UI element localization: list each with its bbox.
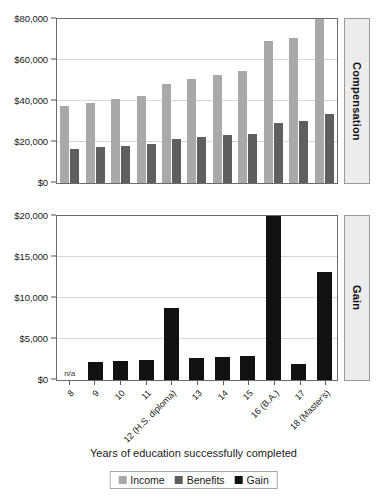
bar-income[interactable] <box>137 96 146 183</box>
bar-income[interactable] <box>162 84 171 183</box>
bar-income[interactable] <box>187 79 196 183</box>
legend-swatch-icon <box>175 476 183 484</box>
x-tick-slot: 8 <box>56 381 82 447</box>
x-tick-mark <box>94 381 95 385</box>
legend-item[interactable]: Benefits <box>175 474 225 486</box>
bar-group[interactable] <box>159 216 184 380</box>
bar-gain[interactable] <box>189 358 204 380</box>
bar-benefits[interactable] <box>248 134 257 183</box>
y-tick-label: $15,000 <box>14 252 48 261</box>
bar-income[interactable] <box>238 71 247 183</box>
legend-swatch-icon <box>118 476 126 484</box>
x-axis: 89101112 (H.S. diploma)13141516 (B.A.)17… <box>56 381 338 447</box>
x-tick-mark <box>223 381 224 385</box>
compensation-bars <box>57 19 337 183</box>
y-tick-label: $80,000 <box>14 14 48 23</box>
y-tick-label: $40,000 <box>14 96 48 105</box>
x-tick-label: 9 <box>91 388 102 399</box>
bar-group[interactable] <box>108 19 133 183</box>
bar-benefits[interactable] <box>96 147 105 183</box>
gain-y-axis: $0$5,000$10,000$15,000$20,000 <box>0 215 56 381</box>
bar-gain[interactable] <box>88 362 103 380</box>
bar-group[interactable] <box>57 19 82 183</box>
bar-group[interactable] <box>235 216 260 380</box>
x-tick-mark <box>325 381 326 385</box>
bar-group[interactable] <box>210 19 235 183</box>
y-tick-label: $20,000 <box>14 211 48 220</box>
bar-gain[interactable] <box>215 357 230 380</box>
bar-benefits[interactable] <box>325 114 334 183</box>
x-tick-mark <box>300 381 301 385</box>
x-tick-label: 10 <box>113 388 127 402</box>
bar-group[interactable] <box>286 19 311 183</box>
bar-group[interactable] <box>184 216 209 380</box>
legend-item[interactable]: Gain <box>235 474 269 486</box>
bar-benefits[interactable] <box>70 149 79 183</box>
compensation-side-label: Compensation <box>344 18 370 184</box>
bar-gain[interactable] <box>164 308 179 380</box>
x-tick-label: 15 <box>241 388 255 402</box>
bar-income[interactable] <box>86 103 95 183</box>
legend-item[interactable]: Income <box>118 474 164 486</box>
bar-income[interactable] <box>289 38 298 183</box>
bar-group[interactable] <box>108 216 133 380</box>
bar-group[interactable] <box>133 19 158 183</box>
x-tick-slot: 14 <box>210 381 236 447</box>
x-tick-label: 8 <box>65 388 76 399</box>
bar-group[interactable] <box>261 216 286 380</box>
bar-benefits[interactable] <box>147 144 156 183</box>
legend-label: Income <box>130 474 164 486</box>
gain-plot-area: n/a <box>56 215 338 381</box>
x-tick-mark <box>274 381 275 385</box>
bar-income[interactable] <box>264 41 273 183</box>
bar-group[interactable] <box>82 216 107 380</box>
x-tick-label: 17 <box>292 388 306 402</box>
bar-benefits[interactable] <box>274 123 283 183</box>
bar-group[interactable] <box>159 19 184 183</box>
x-tick-label: 11 <box>139 388 153 402</box>
compensation-y-axis: $0$20,000$40,000$60,000$80,000 <box>0 18 56 184</box>
bar-benefits[interactable] <box>172 139 181 183</box>
y-tick-label: $0 <box>38 375 48 384</box>
bar-gain[interactable] <box>240 356 255 380</box>
x-tick-slot: 9 <box>82 381 108 447</box>
bar-income[interactable] <box>315 19 324 183</box>
y-tick-label: $60,000 <box>14 55 48 64</box>
x-tick-mark <box>248 381 249 385</box>
bar-gain[interactable] <box>113 361 128 380</box>
bar-group[interactable] <box>286 216 311 380</box>
gain-side-label: Gain <box>344 215 370 381</box>
bar-income[interactable] <box>111 99 120 183</box>
bar-benefits[interactable] <box>223 135 232 183</box>
x-tick-label: 14 <box>216 388 230 402</box>
y-tick-label: $5,000 <box>20 334 48 343</box>
bar-benefits[interactable] <box>121 146 130 184</box>
bar-benefits[interactable] <box>299 121 308 183</box>
bar-group[interactable] <box>312 19 337 183</box>
bar-gain[interactable] <box>317 272 332 380</box>
bar-income[interactable] <box>60 106 69 183</box>
bar-group[interactable] <box>184 19 209 183</box>
gain-side-label-text: Gain <box>351 285 363 310</box>
bar-benefits[interactable] <box>197 137 206 183</box>
x-axis-title: Years of education successfully complete… <box>0 447 387 459</box>
bar-income[interactable] <box>213 75 222 183</box>
bar-group[interactable]: n/a <box>57 216 82 380</box>
bar-group[interactable] <box>82 19 107 183</box>
x-tick-mark <box>197 381 198 385</box>
bar-group[interactable] <box>235 19 260 183</box>
bar-group[interactable] <box>133 216 158 380</box>
bar-group[interactable] <box>210 216 235 380</box>
y-tick-label: $20,000 <box>14 137 48 146</box>
bar-group[interactable] <box>261 19 286 183</box>
compensation-chart-panel: $0$20,000$40,000$60,000$80,000 Compensat… <box>0 18 387 184</box>
gain-chart-panel: $0$5,000$10,000$15,000$20,000 n/a Gain <box>0 215 387 381</box>
bar-group[interactable] <box>312 216 337 380</box>
bar-gain[interactable] <box>266 216 281 380</box>
x-tick-mark <box>171 381 172 385</box>
bar-gain[interactable] <box>139 360 154 381</box>
x-tick-mark <box>69 381 70 385</box>
y-tick-label: $10,000 <box>14 293 48 302</box>
na-annotation: n/a <box>64 369 75 378</box>
bar-gain[interactable] <box>291 364 306 380</box>
